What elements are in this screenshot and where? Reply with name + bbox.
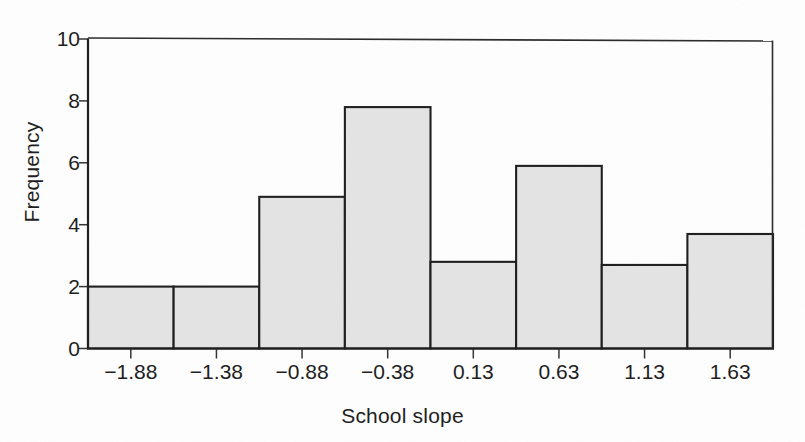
histogram-figure: Frequency 0246810 −1.88−1.38−0.88−0.380.… (0, 0, 805, 442)
x-axis-tick-label: 1.63 (670, 360, 790, 384)
x-axis-tick-labels: −1.88−1.38−0.88−0.380.130.631.131.63 (0, 360, 805, 394)
histogram-bar (602, 265, 688, 349)
histogram-bar (516, 166, 602, 349)
histogram-bar (345, 107, 431, 348)
histogram-bar (259, 197, 345, 349)
histogram-bar (88, 287, 174, 349)
bars-group (88, 107, 773, 348)
x-axis-label: School slope (0, 404, 805, 428)
histogram-bar (687, 234, 773, 349)
histogram-bar (431, 262, 517, 349)
histogram-bar (174, 287, 260, 349)
plot-frame-top (88, 38, 773, 41)
